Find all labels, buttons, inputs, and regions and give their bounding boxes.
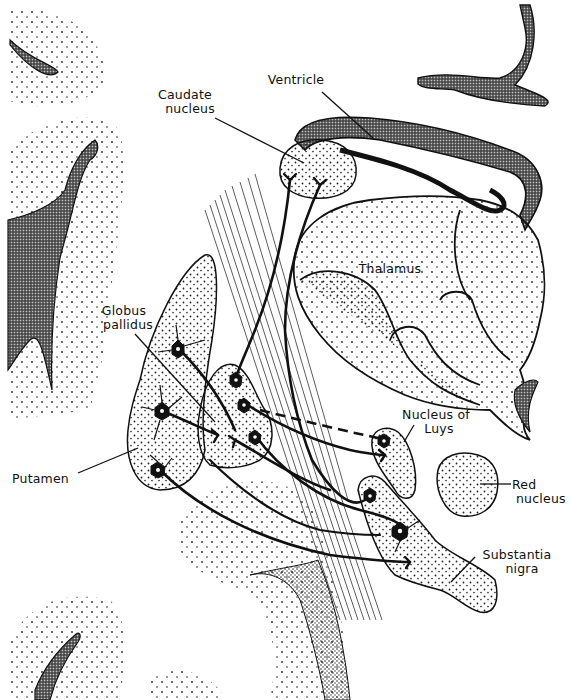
label-globus-line2: pallidus xyxy=(92,318,164,332)
label-red-line1: Red xyxy=(512,478,566,492)
label-luys-line1: Nucleus of xyxy=(396,408,476,422)
label-sn-line1: Substantia xyxy=(474,548,560,562)
top-right-vessel xyxy=(418,5,548,106)
label-substantia-nigra: Substantia nigra xyxy=(474,548,560,576)
label-thalamus: Thalamus xyxy=(355,262,425,276)
left-cortex xyxy=(8,9,123,420)
thalamus xyxy=(294,196,545,440)
label-globus-pallidus: Globus pallidus xyxy=(92,304,164,332)
dashed-pathway xyxy=(260,410,378,438)
label-caudate-line1: Caudate xyxy=(150,88,220,102)
basal-ganglia-diagram xyxy=(0,0,570,700)
label-caudate-line2: nucleus xyxy=(150,102,220,116)
label-putamen: Putamen xyxy=(12,472,69,486)
label-luys-line2: Luys xyxy=(396,422,476,436)
leader-putamen xyxy=(78,448,138,473)
label-sn-line2: nigra xyxy=(474,562,560,576)
label-globus-line1: Globus xyxy=(92,304,164,318)
label-putamen-text: Putamen xyxy=(12,472,69,486)
leader-caudate xyxy=(215,118,304,163)
label-ventricle: Ventricle xyxy=(256,73,336,87)
label-thalamus-text: Thalamus xyxy=(355,262,425,276)
label-red-nucleus: Red nucleus xyxy=(512,478,566,506)
label-caudate-nucleus: Caudate nucleus xyxy=(150,88,220,116)
label-ventricle-text: Ventricle xyxy=(256,73,336,87)
lower-cortex xyxy=(8,481,350,700)
label-nucleus-of-luys: Nucleus of Luys xyxy=(396,408,476,436)
red-nucleus xyxy=(437,453,498,516)
label-red-line2: nucleus xyxy=(516,492,566,506)
neuron-nigra-1 xyxy=(364,488,376,503)
